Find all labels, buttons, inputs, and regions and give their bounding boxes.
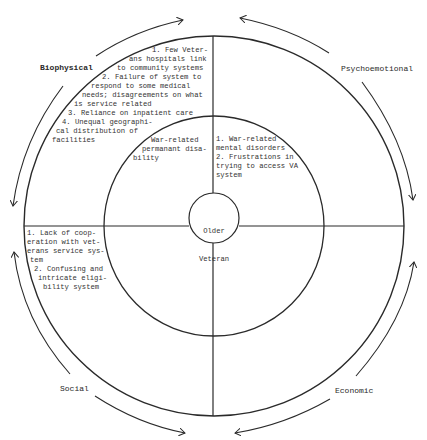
social-outer-line: 1. Lack of coop- bbox=[27, 229, 96, 238]
psychoemotional-inner-line: 1. War-related bbox=[216, 135, 276, 144]
biophysical-outer-line: needs; disagreements on what bbox=[82, 91, 203, 100]
social-outer-line: tem bbox=[30, 256, 43, 265]
social-outer-line: bility system bbox=[43, 283, 99, 292]
psychoemotional-inner-line: mental disorders bbox=[216, 144, 285, 153]
arrow-biophysical-down bbox=[13, 86, 63, 206]
center-label-line2: Veteran bbox=[189, 255, 239, 264]
biophysical-outer-line: respond to some medical bbox=[91, 82, 190, 91]
biophysical-outer-line: ans hospitals link bbox=[129, 55, 207, 64]
label-biophysical: Biophysical bbox=[40, 63, 93, 72]
biophysical-outer-line: 2. Failure of system to bbox=[102, 73, 201, 82]
biophysical-outer-line: facilities bbox=[52, 136, 95, 145]
social-outer-line: erans service sys- bbox=[27, 247, 105, 256]
biophysical-inner-line: War-related bbox=[151, 136, 198, 145]
arrow-economic-up bbox=[356, 262, 414, 376]
biophysical-outer-line: 3. Reliance on inpatient care bbox=[68, 109, 193, 118]
biophysical-outer-line: 1. Few Veter- bbox=[152, 46, 208, 55]
psychoemotional-inner-line: trying to access VA bbox=[216, 162, 298, 171]
center-label-line1: Older bbox=[189, 227, 239, 236]
arrow-economic-to-bottom bbox=[235, 399, 330, 433]
social-outer-line: intricate eligi- bbox=[38, 274, 107, 283]
social-outer-line: eration with vet- bbox=[27, 238, 100, 247]
psychoemotional-inner-line: 2. Frustrations in bbox=[216, 153, 294, 162]
biophysical-outer-line: 4. Unequal geographi- bbox=[62, 118, 153, 127]
arrow-psychoemotional-down bbox=[362, 82, 413, 200]
biophysical-inner-line: bility bbox=[133, 154, 159, 163]
label-psychoemotional: Psychoemotional bbox=[341, 64, 413, 73]
arrow-psychoemotional-to-top bbox=[240, 18, 329, 53]
biophysical-outer-line: cal distribution of bbox=[56, 127, 138, 136]
biophysical-outer-line: to community systems bbox=[117, 64, 203, 73]
label-social: Social bbox=[60, 384, 89, 393]
center-label: Older Veteran bbox=[189, 209, 239, 273]
biophysical-outer-line: is service related bbox=[74, 100, 152, 109]
social-outer-line: 2. Confusing and bbox=[34, 265, 103, 274]
psychoemotional-inner-line: system bbox=[216, 171, 242, 180]
label-economic: Economic bbox=[335, 386, 373, 395]
biophysical-inner-line: permanant disa- bbox=[142, 145, 207, 154]
